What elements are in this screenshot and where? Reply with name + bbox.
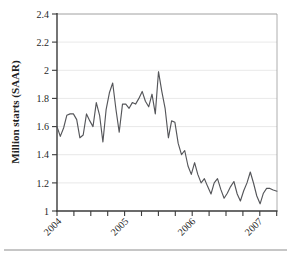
y-tick-label: 1.6 (37, 121, 50, 132)
y-tick-label: 1 (44, 206, 49, 217)
x-tick-label: 2005 (108, 216, 130, 238)
y-tick-label: 1.2 (37, 178, 50, 189)
chart-figure: 1 1.2 1.4 1.6 1.8 2 2.2 2.4 (0, 0, 291, 260)
y-axis-title: Million starts (SAAR) (9, 60, 22, 164)
y-tick-label: 2 (44, 65, 49, 76)
y-tick-marks (52, 14, 57, 211)
x-tick-label: 2006 (175, 216, 197, 238)
housing-starts-line-chart: 1 1.2 1.4 1.6 1.8 2 2.2 2.4 (0, 0, 291, 260)
x-tick-label: 2004 (41, 216, 63, 238)
y-tick-label: 1.8 (37, 93, 50, 104)
x-tick-marks (57, 211, 277, 216)
y-tick-label: 2.2 (37, 37, 50, 48)
y-tick-label: 2.4 (37, 9, 50, 20)
y-tick-label: 1.4 (37, 149, 50, 160)
x-tick-label: 2007 (242, 216, 264, 238)
plot-background (57, 14, 277, 211)
x-tick-labels: 2004 2005 2006 2007 (41, 216, 264, 238)
y-tick-labels: 1 1.2 1.4 1.6 1.8 2 2.2 2.4 (37, 9, 50, 217)
